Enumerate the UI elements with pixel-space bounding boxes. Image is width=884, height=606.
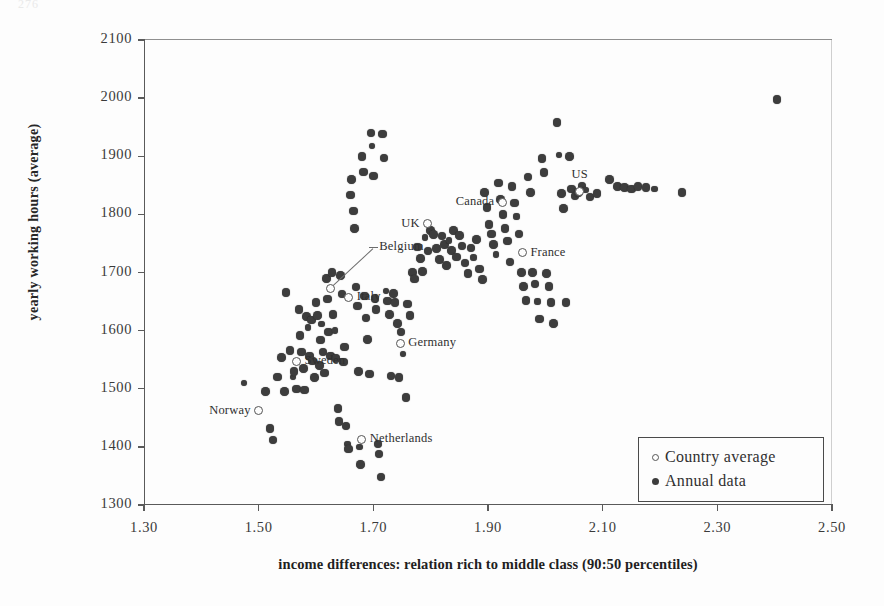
- y-tick-label: 1400: [48, 437, 132, 454]
- x-axis-title: income differences: relation rich to mid…: [144, 556, 832, 573]
- data-point: [282, 288, 291, 297]
- plot-area: [144, 40, 832, 505]
- y-tick-label: 1300: [48, 495, 132, 512]
- data-point: [356, 460, 365, 469]
- x-tick-label: 1.90: [448, 519, 528, 536]
- data-point: [410, 275, 419, 284]
- y-tick-label: 2100: [48, 30, 132, 47]
- data-point: [501, 224, 510, 233]
- data-point: [485, 220, 494, 229]
- x-tick-label: 1.30: [104, 519, 184, 536]
- data-point: [347, 175, 356, 184]
- data-point: [385, 310, 394, 319]
- data-point: [334, 404, 343, 413]
- data-point: [538, 154, 547, 163]
- data-point: [402, 393, 411, 402]
- data-point: [773, 95, 782, 104]
- filled-circle-icon: [649, 473, 665, 489]
- legend-item-annual-data: Annual data: [649, 469, 813, 493]
- data-point: [475, 265, 484, 274]
- open-circle-icon: [649, 449, 665, 465]
- data-point: [397, 328, 406, 337]
- data-point: [519, 282, 528, 291]
- data-point: [316, 336, 325, 345]
- data-point: [369, 172, 378, 181]
- data-point: [295, 305, 304, 314]
- y-tick-label: 2000: [48, 88, 132, 105]
- data-point: [329, 310, 338, 319]
- data-point: [241, 380, 248, 387]
- country-label-netherlands: Netherlands: [370, 431, 433, 446]
- data-point: [528, 268, 537, 277]
- data-point: [553, 118, 562, 127]
- data-point: [455, 231, 464, 240]
- y-tick-label: 1600: [48, 321, 132, 338]
- data-point: [261, 387, 270, 396]
- y-tick-mark: [138, 156, 145, 157]
- data-point: [472, 235, 481, 244]
- x-tick-label: 2.50: [792, 519, 872, 536]
- country-label-canada: Canada: [456, 194, 495, 209]
- data-point: [549, 319, 558, 328]
- data-point: [534, 298, 541, 305]
- figure-scatter-working-hours: 276 130014001500160017001800190020002100…: [0, 0, 884, 606]
- x-tick-mark: [258, 504, 259, 511]
- data-point: [416, 254, 425, 263]
- data-point: [280, 387, 289, 396]
- y-tick-label: 1900: [48, 146, 132, 163]
- data-point: [526, 188, 535, 197]
- country-average-marker-canada: [498, 198, 507, 207]
- data-point: [320, 369, 329, 378]
- country-label-belgium: Belgium: [379, 239, 423, 254]
- x-tick-mark: [373, 504, 374, 511]
- y-tick-label: 1500: [48, 379, 132, 396]
- y-tick-label: 1700: [48, 263, 132, 280]
- data-point: [510, 199, 519, 208]
- x-tick-mark: [487, 504, 488, 511]
- data-point: [305, 324, 312, 331]
- data-point: [535, 315, 544, 324]
- y-tick-mark: [138, 97, 145, 98]
- data-point: [340, 343, 349, 352]
- data-point: [354, 367, 363, 376]
- data-point: [464, 269, 473, 278]
- x-tick-mark: [831, 504, 832, 511]
- country-label-norway: Norway: [209, 403, 250, 418]
- country-label-france: France: [530, 245, 565, 260]
- data-point: [363, 335, 372, 344]
- data-point: [358, 152, 367, 161]
- data-point: [499, 210, 508, 219]
- data-point: [651, 186, 658, 193]
- data-point: [565, 152, 574, 161]
- y-tick-label: 1800: [48, 204, 132, 221]
- data-point: [296, 331, 305, 340]
- page-number-artifact: 276: [18, 0, 39, 12]
- data-point: [593, 189, 602, 198]
- y-tick-mark: [138, 330, 145, 331]
- y-tick-mark: [138, 39, 145, 40]
- data-point: [378, 130, 387, 139]
- data-point: [328, 268, 337, 277]
- y-tick-mark: [138, 446, 145, 447]
- legend-label-annual-data: Annual data: [665, 472, 746, 490]
- data-point: [487, 230, 496, 239]
- data-point: [545, 282, 554, 291]
- data-point: [350, 224, 359, 233]
- data-point: [513, 213, 520, 220]
- data-point: [365, 370, 374, 379]
- country-label-italy: Italy: [357, 289, 381, 304]
- leader-tick-belgium: [369, 247, 378, 248]
- data-point: [403, 300, 412, 309]
- data-point: [559, 204, 568, 213]
- country-average-marker-germany: [396, 339, 405, 348]
- country-label-sweden: Sweden: [305, 353, 346, 368]
- x-tick-label: 1.50: [219, 519, 299, 536]
- country-average-marker-sweden: [292, 357, 301, 366]
- data-point: [557, 189, 566, 198]
- data-point: [310, 373, 319, 382]
- data-point: [389, 289, 398, 298]
- data-point: [300, 386, 309, 395]
- data-point: [418, 267, 427, 276]
- x-tick-label: 1.70: [333, 519, 413, 536]
- data-point: [359, 168, 368, 177]
